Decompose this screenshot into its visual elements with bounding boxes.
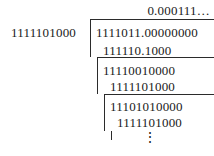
divisor-value: 1111101000 — [11, 25, 76, 41]
binary-long-division-figure: 0.000111… 1111101000 1111011.00000000 11… — [0, 0, 214, 156]
remainder-row-2: 11101010000 — [110, 99, 183, 115]
quotient-value: 0.000111… — [96, 3, 210, 19]
subtrahend-row-2: 1111101000 — [110, 79, 175, 95]
subtrahend-row-1: 111110.1000 — [103, 43, 172, 59]
subtrahend-row-3: 1111101000 — [117, 115, 182, 131]
dividend-value: 1111011.00000000 — [96, 25, 198, 41]
division-bracket-tail-rule — [111, 131, 112, 140]
vertical-ellipsis: ⋮ — [140, 131, 160, 145]
remainder-row-1: 11110010000 — [103, 63, 175, 79]
